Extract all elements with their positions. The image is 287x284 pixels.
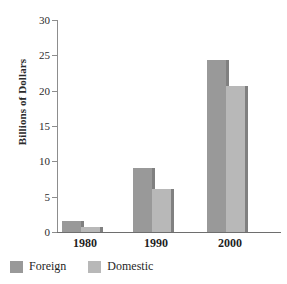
x-axis-label-1990: 1990 <box>144 236 168 251</box>
legend-swatch-icon <box>10 261 23 273</box>
y-tick-label: 20 <box>39 85 50 96</box>
bar-shadow-edge <box>100 227 103 232</box>
bar-foreign-1990 <box>133 168 152 232</box>
bar-shadow-edge <box>245 86 248 232</box>
legend-label: Foreign <box>29 259 66 274</box>
bar-face <box>62 221 81 232</box>
bar-face <box>133 168 152 232</box>
bar-face <box>152 189 171 232</box>
bar-domestic-1980 <box>81 227 100 232</box>
bar-group <box>133 20 178 232</box>
x-axis-line <box>57 232 281 233</box>
y-tick-label: 25 <box>39 50 50 61</box>
y-axis-title: Billions of Dollars <box>16 32 28 172</box>
y-tick-label: 0 <box>45 227 51 238</box>
legend-item-domestic: Domestic <box>88 259 153 274</box>
chart-legend: ForeignDomestic <box>10 259 153 274</box>
bar-groups <box>57 20 281 232</box>
legend-label: Domestic <box>107 259 153 274</box>
plot-area: 051015202530 <box>57 20 281 232</box>
bar-foreign-1980 <box>62 221 81 232</box>
bar-chart: Billions of Dollars 051015202530 1980199… <box>0 0 287 284</box>
bar-face <box>81 227 100 232</box>
y-tick-label: 15 <box>39 121 50 132</box>
bar-domestic-1990 <box>152 189 171 232</box>
bar-group <box>62 20 107 232</box>
y-tick-label: 30 <box>39 15 50 26</box>
x-axis-labels: 198019902000 <box>57 236 281 254</box>
bar-group <box>207 20 252 232</box>
y-tick-label: 10 <box>39 156 50 167</box>
y-tick-mark <box>52 232 57 233</box>
y-tick-label: 5 <box>45 191 51 202</box>
bar-face <box>207 60 226 232</box>
x-axis-label-1980: 1980 <box>73 236 97 251</box>
legend-item-foreign: Foreign <box>10 259 66 274</box>
bar-shadow-edge <box>171 189 174 232</box>
legend-swatch-icon <box>88 261 101 273</box>
bar-domestic-2000 <box>226 86 245 232</box>
bar-foreign-2000 <box>207 60 226 232</box>
bar-face <box>226 86 245 232</box>
x-axis-label-2000: 2000 <box>218 236 242 251</box>
